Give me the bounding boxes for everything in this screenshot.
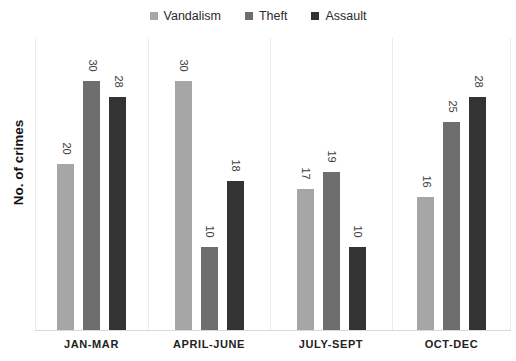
x-axis-labels: JAN-MAR APRIL-JUNE JULY-SEPT OCT-DEC bbox=[35, 338, 511, 358]
bar-value-label: 20 bbox=[60, 142, 71, 154]
bar-assault[interactable] bbox=[469, 97, 486, 330]
bar-vandalism[interactable] bbox=[297, 189, 314, 330]
bar-value-label: 18 bbox=[230, 159, 241, 171]
bar-wrap-vandalism: 16 bbox=[417, 38, 434, 330]
legend-swatch-theft bbox=[245, 12, 253, 20]
bar-wrap-vandalism: 17 bbox=[297, 38, 314, 330]
legend-item-assault[interactable]: Assault bbox=[311, 10, 366, 23]
bar-value-label: 10 bbox=[204, 225, 215, 237]
plot-area: 20 30 28 30 10 bbox=[35, 38, 511, 330]
bar-value-label: 10 bbox=[352, 225, 363, 237]
chart-legend: Vandalism Theft Assault bbox=[0, 6, 516, 26]
bar-assault[interactable] bbox=[349, 247, 366, 330]
bar-wrap-theft: 30 bbox=[83, 38, 100, 330]
bar-wrap-assault: 10 bbox=[349, 38, 366, 330]
bar-theft[interactable] bbox=[443, 122, 460, 330]
bar-value-label: 16 bbox=[420, 175, 431, 187]
bar-value-label: 19 bbox=[326, 150, 337, 162]
category-label-april-june: APRIL-JUNE bbox=[148, 338, 270, 350]
legend-swatch-assault bbox=[311, 12, 319, 20]
bar-wrap-assault: 28 bbox=[109, 38, 126, 330]
legend-item-vandalism[interactable]: Vandalism bbox=[150, 10, 221, 23]
y-axis-title: No. of crimes bbox=[11, 93, 26, 233]
bar-value-label: 28 bbox=[112, 75, 123, 87]
bar-group-oct-dec: 16 25 28 bbox=[392, 38, 511, 330]
bar-assault[interactable] bbox=[109, 97, 126, 330]
x-axis-line bbox=[35, 330, 511, 331]
bar-theft[interactable] bbox=[323, 172, 340, 330]
bar-chart: Vandalism Theft Assault No. of crimes 20 bbox=[0, 0, 516, 361]
bar-theft[interactable] bbox=[201, 247, 218, 330]
category-label-july-sept: JULY-SEPT bbox=[270, 338, 392, 350]
bar-value-label: 28 bbox=[472, 75, 483, 87]
legend-label-assault: Assault bbox=[325, 10, 366, 23]
bar-wrap-assault: 28 bbox=[469, 38, 486, 330]
bar-wrap-vandalism: 20 bbox=[57, 38, 74, 330]
bar-assault[interactable] bbox=[227, 181, 244, 330]
bar-value-label: 30 bbox=[86, 59, 97, 71]
bar-vandalism[interactable] bbox=[175, 81, 192, 330]
bar-vandalism[interactable] bbox=[417, 197, 434, 330]
bar-wrap-assault: 18 bbox=[227, 38, 244, 330]
bar-value-label: 17 bbox=[300, 167, 311, 179]
bar-group-april-june: 30 10 18 bbox=[148, 38, 270, 330]
bar-value-label: 25 bbox=[446, 100, 457, 112]
bar-vandalism[interactable] bbox=[57, 164, 74, 330]
category-label-jan-mar: JAN-MAR bbox=[35, 338, 148, 350]
bar-theft[interactable] bbox=[83, 81, 100, 330]
legend-label-vandalism: Vandalism bbox=[164, 10, 221, 23]
legend-swatch-vandalism bbox=[150, 12, 158, 20]
bar-wrap-theft: 10 bbox=[201, 38, 218, 330]
legend-item-theft[interactable]: Theft bbox=[245, 10, 288, 23]
bar-wrap-theft: 19 bbox=[323, 38, 340, 330]
bar-wrap-vandalism: 30 bbox=[175, 38, 192, 330]
category-label-oct-dec: OCT-DEC bbox=[392, 338, 511, 350]
bar-group-july-sept: 17 19 10 bbox=[270, 38, 392, 330]
bar-group-jan-mar: 20 30 28 bbox=[35, 38, 148, 330]
bar-wrap-theft: 25 bbox=[443, 38, 460, 330]
bar-value-label: 30 bbox=[178, 59, 189, 71]
legend-label-theft: Theft bbox=[259, 10, 288, 23]
